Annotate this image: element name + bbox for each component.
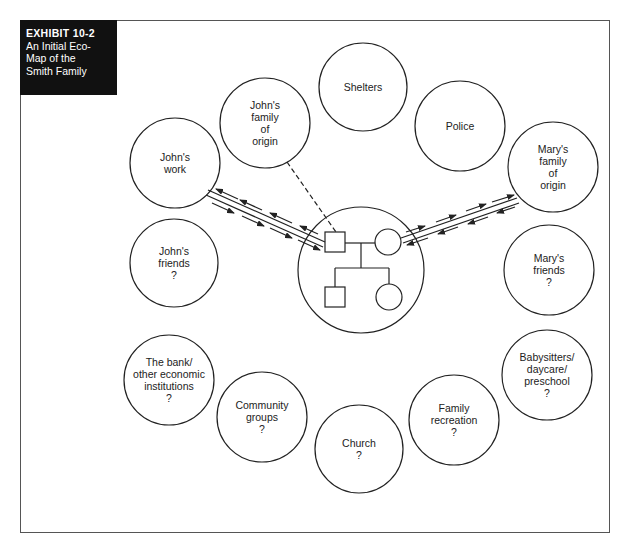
system-node-community-groups: Communitygroups? — [217, 372, 307, 462]
system-label: ? — [356, 449, 362, 461]
system-label: groups — [246, 411, 278, 423]
system-label: work — [163, 163, 187, 175]
strong-connection-marys-family — [401, 195, 519, 245]
system-label: John's — [250, 99, 280, 111]
system-label: ? — [451, 426, 457, 438]
system-node-shelters: Shelters — [319, 43, 407, 131]
system-node-marys-friends: Mary'sfriends? — [504, 225, 594, 315]
system-label: John's — [160, 151, 190, 163]
system-label: John's — [159, 245, 189, 257]
system-label: Family — [439, 402, 471, 414]
system-label: Police — [446, 120, 475, 132]
system-label: family — [251, 111, 279, 123]
john-square-symbol — [325, 232, 345, 252]
exhibit-label-box: EXHIBIT 10-2 An Initial Eco- Map of the … — [20, 20, 117, 95]
family-genogram — [325, 229, 402, 310]
system-label: origin — [252, 135, 278, 147]
system-node-johns-work: John'swork — [130, 118, 220, 208]
household-circle — [298, 207, 424, 333]
system-node-family-recreation: Familyrecreation? — [409, 375, 499, 465]
system-node-church: Church? — [315, 405, 403, 493]
system-node-johns-friends: John'sfriends? — [130, 219, 218, 307]
exhibit-title-line-1: An Initial Eco- — [26, 40, 111, 53]
system-label: of — [261, 123, 270, 135]
system-label: ? — [259, 423, 265, 435]
exhibit-title-line-3: Smith Family — [26, 65, 111, 78]
system-label: origin — [540, 179, 566, 191]
system-node-marys-family-of-origin: Mary'sfamilyoforigin — [508, 122, 598, 212]
system-label: daycare/ — [527, 363, 567, 375]
system-node-johns-family-of-origin: John'sfamilyoforigin — [220, 78, 310, 168]
system-node-bank: The bank/other economicinstitutions? — [124, 335, 214, 425]
system-label: Church — [342, 437, 376, 449]
system-label: ? — [166, 392, 172, 404]
exhibit-title-line-2: Map of the — [26, 52, 111, 65]
tenuous-connection-johns-family — [287, 162, 336, 232]
system-label: Mary's — [538, 143, 569, 155]
system-label: Babysitters/ — [520, 351, 575, 363]
system-label: Mary's — [534, 252, 565, 264]
system-label: ? — [171, 269, 177, 281]
daughter-circle-symbol — [376, 284, 402, 310]
system-label: The bank/ — [146, 356, 193, 368]
system-label: ? — [546, 276, 552, 288]
system-label: family — [539, 155, 567, 167]
strong-connection-johns-work — [206, 189, 325, 250]
system-label: of — [549, 167, 558, 179]
system-label: ? — [544, 387, 550, 399]
system-label: other economic — [133, 368, 205, 380]
system-label: friends — [158, 257, 190, 269]
system-label: friends — [533, 264, 565, 276]
system-label: Community — [235, 399, 289, 411]
system-node-babysitters: Babysitters/daycare/preschool? — [502, 330, 592, 420]
son-square-symbol — [325, 287, 345, 307]
system-node-police: Police — [415, 81, 505, 171]
system-label: preschool — [524, 375, 570, 387]
mary-circle-symbol — [375, 229, 401, 255]
system-label: recreation — [431, 414, 478, 426]
system-label: Shelters — [344, 81, 383, 93]
system-label: institutions — [144, 380, 194, 392]
exhibit-number: EXHIBIT 10-2 — [26, 27, 111, 40]
